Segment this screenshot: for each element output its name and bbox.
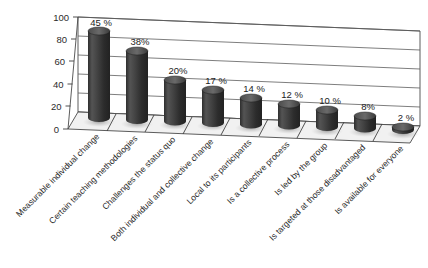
y-tick-0: 0 <box>54 124 59 135</box>
data-label: 45 % <box>90 17 112 28</box>
y-tick-40: 40 <box>53 79 64 90</box>
bar-chart-3d: 100 80 60 40 20 0 <box>0 0 428 268</box>
data-label: 14 % <box>243 83 265 94</box>
category-label: Local to its participants <box>185 137 254 206</box>
y-tick-60: 60 <box>54 56 65 67</box>
category-label: Challenges the status quo <box>100 134 177 211</box>
y-axis-tick-labels: 100 80 60 40 20 0 <box>51 12 69 135</box>
data-label: 20% <box>168 65 188 76</box>
x-axis-category-labels: Measurable individual change Certain tea… <box>14 131 406 243</box>
data-label: 10 % <box>319 95 341 106</box>
data-label: 38% <box>130 36 150 47</box>
data-label: 17 % <box>205 75 227 86</box>
chart-container: 100 80 60 40 20 0 <box>0 0 428 268</box>
category-label: Measurable individual change <box>14 131 102 219</box>
y-tick-80: 80 <box>56 34 67 45</box>
data-label: 8% <box>361 101 375 112</box>
y-tick-100: 100 <box>53 12 69 23</box>
data-label: 2 % <box>398 112 415 123</box>
category-label: Is available for everyone <box>332 143 405 216</box>
y-tick-20: 20 <box>51 101 62 112</box>
data-label: 12 % <box>281 89 303 100</box>
